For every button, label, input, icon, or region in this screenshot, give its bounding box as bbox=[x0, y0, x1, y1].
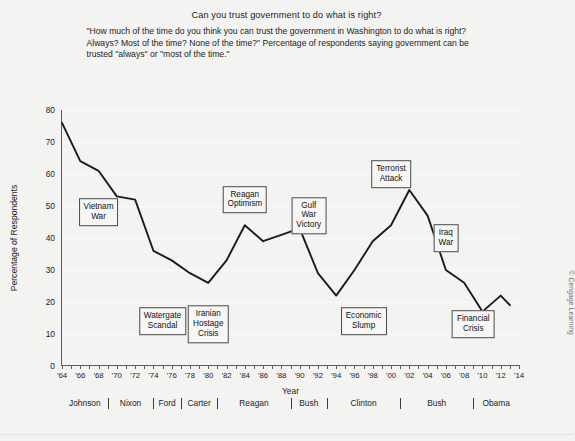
chart-annotation: Reagan Optimism bbox=[223, 186, 268, 214]
president-divider bbox=[291, 398, 292, 409]
x-tick-mark bbox=[519, 365, 520, 369]
y-tick-label: 40 bbox=[46, 233, 55, 243]
x-tick-label: '76 bbox=[167, 371, 177, 380]
x-tick-label: '64 bbox=[57, 371, 67, 380]
president-divider bbox=[153, 398, 154, 409]
plot-area: Percentage of Respondents 01020304050607… bbox=[62, 110, 519, 365]
x-tick-label: '00 bbox=[386, 371, 396, 380]
president-label-nixon-1: Nixon bbox=[120, 398, 141, 408]
y-tick-label: 10 bbox=[46, 329, 55, 339]
x-tick-label: '66 bbox=[75, 371, 85, 380]
president-divider bbox=[181, 398, 182, 409]
president-timeline: JohnsonNixonFordCarterReaganBushClintonB… bbox=[62, 398, 519, 414]
x-tick-label: '82 bbox=[221, 371, 231, 380]
chart-annotation: Financial Crisis bbox=[452, 311, 495, 339]
x-tick-label: '70 bbox=[112, 371, 122, 380]
president-divider bbox=[400, 398, 401, 409]
x-tick-label: '88 bbox=[276, 371, 286, 380]
president-divider bbox=[473, 398, 474, 409]
x-tick-label: '86 bbox=[258, 371, 268, 380]
president-label-johnson-0: Johnson bbox=[69, 398, 101, 408]
x-tick-label: '14 bbox=[514, 371, 524, 380]
chart-subtitle: "How much of the time do you think you c… bbox=[87, 26, 487, 61]
copyright-credit: © Cengage Learning bbox=[568, 270, 575, 335]
chart-annotation: Iraq War bbox=[434, 224, 459, 252]
bottom-divider bbox=[0, 434, 573, 435]
chart-header: Can you trust government to do what is r… bbox=[0, 10, 573, 61]
president-divider bbox=[327, 398, 328, 409]
president-divider bbox=[217, 398, 218, 409]
y-tick-label: 0 bbox=[50, 361, 55, 371]
president-label-bush-7: Bush bbox=[427, 398, 446, 408]
x-tick-label: '02 bbox=[404, 371, 414, 380]
chart-annotation: Terrorist Attack bbox=[371, 160, 411, 188]
chart-annotation: Watergate Scandal bbox=[139, 307, 186, 335]
x-tick-label: '72 bbox=[130, 371, 140, 380]
x-tick-label: '80 bbox=[203, 371, 213, 380]
president-label-reagan-4: Reagan bbox=[239, 398, 268, 408]
y-axis-title: Percentage of Respondents bbox=[9, 185, 19, 292]
x-tick-label: '78 bbox=[185, 371, 195, 380]
x-tick-label: '90 bbox=[295, 371, 305, 380]
president-label-bush-5: Bush bbox=[299, 398, 318, 408]
x-tick-label: '12 bbox=[496, 371, 506, 380]
president-label-ford-2: Ford bbox=[158, 398, 175, 408]
x-tick-label: '06 bbox=[441, 371, 451, 380]
y-tick-label: 80 bbox=[46, 105, 55, 115]
chart-annotation: Gulf War Victory bbox=[291, 197, 326, 234]
y-tick-label: 30 bbox=[46, 265, 55, 275]
chart-title: Can you trust government to do what is r… bbox=[0, 10, 573, 20]
president-divider bbox=[108, 398, 109, 409]
x-axis-title: Year bbox=[282, 386, 299, 396]
x-tick-label: '94 bbox=[331, 371, 341, 380]
x-tick-label: '98 bbox=[368, 371, 378, 380]
president-label-obama-8: Obama bbox=[482, 398, 509, 408]
chart-annotation: Iranian Hostage Crisis bbox=[188, 306, 229, 343]
x-tick-label: '84 bbox=[240, 371, 250, 380]
president-label-carter-3: Carter bbox=[187, 398, 210, 408]
y-tick-label: 50 bbox=[46, 201, 55, 211]
x-tick-label: '92 bbox=[313, 371, 323, 380]
data-polyline bbox=[62, 123, 510, 312]
y-tick-label: 60 bbox=[46, 169, 55, 179]
x-tick-label: '96 bbox=[349, 371, 359, 380]
chart-annotation: Economic Slump bbox=[341, 307, 387, 335]
x-tick-label: '68 bbox=[93, 371, 103, 380]
chart-annotation: Vietnam War bbox=[79, 199, 119, 227]
y-tick-label: 20 bbox=[46, 297, 55, 307]
x-tick-label: '04 bbox=[423, 371, 433, 380]
x-tick-label: '74 bbox=[148, 371, 158, 380]
president-label-clinton-6: Clinton bbox=[351, 398, 377, 408]
y-tick-label: 70 bbox=[46, 137, 55, 147]
x-tick-label: '10 bbox=[477, 371, 487, 380]
x-tick-label: '08 bbox=[459, 371, 469, 380]
